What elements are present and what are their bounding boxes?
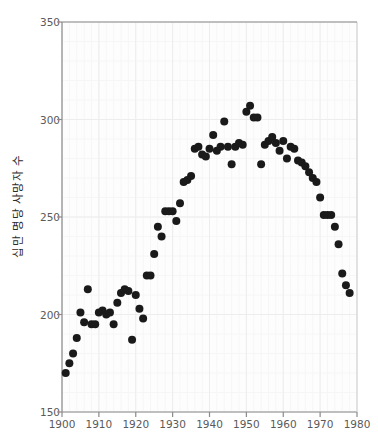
data-point	[135, 305, 143, 313]
data-point	[331, 223, 339, 231]
data-point	[279, 137, 287, 145]
data-point	[327, 211, 335, 219]
data-point	[316, 194, 324, 202]
data-point	[209, 131, 217, 139]
data-point	[246, 102, 254, 110]
data-point	[206, 145, 214, 153]
data-point	[91, 320, 99, 328]
plot-area	[0, 0, 378, 448]
data-point	[228, 160, 236, 168]
data-point	[113, 299, 121, 307]
data-point	[283, 155, 291, 163]
data-point	[346, 289, 354, 297]
data-point	[169, 207, 177, 215]
data-point	[342, 281, 350, 289]
data-point	[220, 117, 228, 125]
scatter-chart: 십만 명당 사망자 수 150200250300350 190019101920…	[0, 0, 378, 448]
data-point	[224, 143, 232, 151]
data-point	[106, 309, 114, 317]
data-point	[312, 178, 320, 186]
data-point	[80, 318, 88, 326]
data-point	[62, 369, 70, 377]
data-point	[73, 334, 81, 342]
data-point	[110, 320, 118, 328]
data-point	[128, 336, 136, 344]
data-point	[194, 143, 202, 151]
data-point	[132, 291, 140, 299]
data-point	[257, 160, 265, 168]
data-point	[176, 199, 184, 207]
data-point	[139, 314, 147, 322]
data-point	[84, 285, 92, 293]
data-point	[172, 217, 180, 225]
data-point	[76, 309, 84, 317]
data-point	[154, 223, 162, 231]
data-point	[272, 139, 280, 147]
data-point	[335, 240, 343, 248]
data-point	[187, 172, 195, 180]
data-point	[69, 350, 77, 358]
data-point	[147, 272, 155, 280]
data-point	[150, 250, 158, 258]
data-point	[124, 287, 132, 295]
data-point	[239, 141, 247, 149]
data-point	[338, 270, 346, 278]
data-point	[290, 145, 298, 153]
data-point	[158, 233, 166, 241]
data-point	[202, 153, 210, 161]
data-point	[276, 147, 284, 155]
data-point	[217, 143, 225, 151]
data-point	[253, 114, 261, 122]
data-point	[65, 359, 73, 367]
